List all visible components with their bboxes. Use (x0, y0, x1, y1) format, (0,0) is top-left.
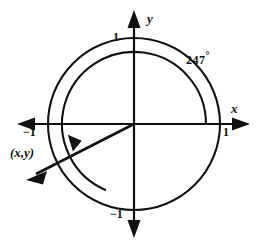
unit-circle-figure: y x 1 −1 1 −1 247° (x,y) (0, 0, 265, 246)
x-axis-tick-positive-one: 1 (223, 126, 229, 138)
degree-symbol-icon: ° (206, 50, 211, 61)
angle-measure-label: 247° (186, 51, 210, 66)
y-axis-arrow-down (128, 220, 141, 238)
diagram-canvas (0, 0, 265, 246)
y-axis-tick-negative-one: −1 (110, 208, 123, 220)
y-axis-tick-positive-one: 1 (113, 31, 119, 43)
x-axis-label: x (231, 102, 238, 115)
terminal-point-label: (x,y) (10, 146, 34, 159)
x-axis-arrow-right (232, 118, 250, 131)
y-axis-arrow-up (128, 10, 141, 28)
angle-measure-value: 247 (186, 53, 206, 67)
y-axis-label: y (147, 12, 153, 25)
x-axis-tick-negative-one: −1 (23, 126, 36, 138)
